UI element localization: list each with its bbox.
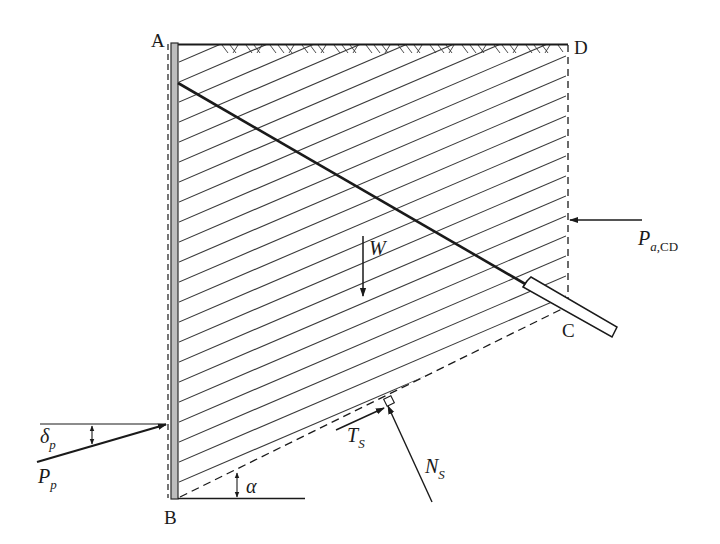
delta-p-subscript: p [49,437,56,452]
active-pressure-symbol: P [638,227,650,249]
normal-force-arrow [388,406,432,502]
anchor-tendon [178,83,527,285]
point-label-c: C [562,321,575,340]
point-label-a: A [151,31,165,50]
active-pressure-label: Pa,CD [638,228,678,248]
normal-force-subscript: S [438,467,445,482]
retaining-wall [171,43,178,499]
ground-surface-hatch [222,45,563,53]
point-label-d: D [574,38,588,57]
shear-force-label: TS [347,425,365,445]
normal-force-label: NS [425,456,445,476]
diagram-canvas [0,0,720,544]
delta-p-label: δp [40,426,56,446]
passive-pressure-arrow [37,425,166,463]
weight-label: W [369,238,386,258]
active-pressure-subscript-cd: ,CD [657,239,678,254]
shear-force-subscript: S [358,436,365,451]
delta-p-symbol: δ [40,425,49,447]
point-label-b: B [164,508,177,527]
passive-pressure-subscript: p [50,477,57,492]
right-angle-marker [384,396,395,407]
passive-pressure-label: Pp [38,466,57,486]
alpha-label: α [246,476,257,496]
normal-force-symbol: N [425,455,438,477]
passive-pressure-symbol: P [38,465,50,487]
shear-force-symbol: T [347,424,358,446]
failure-plane-bc [180,306,568,497]
